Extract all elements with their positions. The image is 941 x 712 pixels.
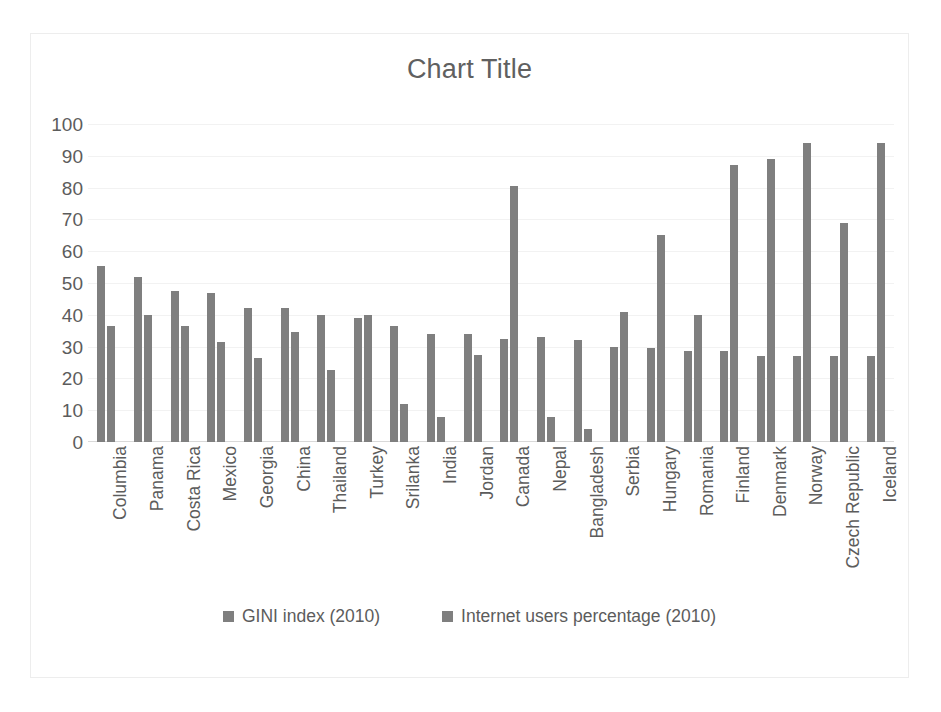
y-axis-tick-label: 0 <box>31 433 83 452</box>
bar-group <box>647 124 665 442</box>
bar <box>720 351 728 442</box>
bar <box>427 334 435 442</box>
bar <box>803 143 811 442</box>
bar-group <box>427 124 445 442</box>
y-axis: 1009080706050403020100 <box>31 124 83 442</box>
x-axis-category-label: Columbia <box>112 446 130 520</box>
x-axis-category-label: Thailand <box>332 446 350 513</box>
bar <box>281 308 289 442</box>
x-axis-labels: ColumbiaPanamaCosta RicaMexicoGeorgiaChi… <box>88 446 894 596</box>
bar <box>793 356 801 442</box>
bar-group <box>720 124 738 442</box>
bar <box>171 291 179 442</box>
bar-group <box>830 124 848 442</box>
y-axis-tick-label: 30 <box>31 337 83 356</box>
bar <box>181 326 189 442</box>
y-axis-tick-label: 60 <box>31 242 83 261</box>
bar <box>107 326 115 442</box>
bar <box>354 318 362 442</box>
bar-group <box>390 124 408 442</box>
bar <box>840 223 848 442</box>
bar <box>244 308 252 442</box>
y-axis-tick-label: 40 <box>31 305 83 324</box>
x-axis-category-label: Romania <box>699 446 717 516</box>
bar <box>217 342 225 442</box>
bar-group <box>757 124 775 442</box>
x-axis-category-label: Serbia <box>625 446 643 497</box>
bar <box>657 235 665 442</box>
bar <box>97 266 105 442</box>
y-axis-tick-label: 70 <box>31 210 83 229</box>
x-axis-category-label: China <box>296 446 314 492</box>
y-axis-tick-label: 100 <box>31 115 83 134</box>
x-axis-category-label: Bangladesh <box>589 446 607 538</box>
bar <box>620 312 628 442</box>
x-axis-category-label: Czech Republic <box>845 446 863 569</box>
bar-group <box>574 124 592 442</box>
bar <box>694 315 702 442</box>
bar <box>867 356 875 442</box>
y-axis-tick-label: 90 <box>31 146 83 165</box>
bar <box>647 348 655 442</box>
x-axis-category-label: Georgia <box>259 446 277 508</box>
x-axis-category-label: India <box>442 446 460 484</box>
bar <box>144 315 152 442</box>
bar-group <box>537 124 555 442</box>
bar <box>537 337 545 442</box>
bar-group <box>244 124 262 442</box>
bar-group <box>684 124 702 442</box>
bar-group <box>134 124 152 442</box>
bar <box>510 186 518 442</box>
x-axis-category-label: Nepal <box>552 446 570 492</box>
bar <box>610 347 618 442</box>
bar <box>574 340 582 442</box>
bar <box>437 417 445 442</box>
bar-group <box>207 124 225 442</box>
bar-group <box>97 124 115 442</box>
chart-frame: Chart Title 1009080706050403020100 Colum… <box>30 33 909 678</box>
legend-item: Internet users percentage (2010) <box>442 606 716 627</box>
bar <box>464 334 472 442</box>
bar-group <box>464 124 482 442</box>
bar <box>584 429 592 442</box>
bar <box>207 293 215 442</box>
plot-area <box>88 124 894 442</box>
x-axis-category-label: Mexico <box>222 446 240 501</box>
legend-swatch-icon <box>442 611 453 622</box>
bar <box>327 370 335 442</box>
x-axis-category-label: Turkey <box>369 446 387 499</box>
bar <box>684 351 692 442</box>
bar <box>767 159 775 442</box>
x-axis-category-label: Finland <box>735 446 753 503</box>
x-axis-category-label: Costa Rica <box>186 446 204 532</box>
legend-swatch-icon <box>223 611 234 622</box>
bar-group <box>793 124 811 442</box>
x-axis-category-label: Canada <box>515 446 533 507</box>
bar <box>291 332 299 442</box>
y-axis-tick-label: 10 <box>31 401 83 420</box>
bar <box>364 315 372 442</box>
y-axis-tick-label: 80 <box>31 178 83 197</box>
bar <box>134 277 142 442</box>
bar-group <box>354 124 372 442</box>
bar <box>830 356 838 442</box>
y-axis-tick-label: 20 <box>31 369 83 388</box>
x-axis-category-label: Denmark <box>772 446 790 517</box>
bar-group <box>281 124 299 442</box>
bar-group <box>317 124 335 442</box>
x-axis-category-label: Iceland <box>882 446 900 502</box>
bar <box>390 326 398 442</box>
y-axis-tick-label: 50 <box>31 274 83 293</box>
bar-group <box>610 124 628 442</box>
bar-group <box>867 124 885 442</box>
bar <box>547 417 555 442</box>
x-axis-category-label: Norway <box>808 446 826 505</box>
chart-title: Chart Title <box>31 54 908 85</box>
bar <box>474 355 482 442</box>
x-axis-category-label: Jordan <box>479 446 497 500</box>
x-axis-category-label: Panama <box>149 446 167 511</box>
legend-label: GINI index (2010) <box>242 606 380 627</box>
bar <box>317 315 325 442</box>
bar <box>500 339 508 442</box>
bar <box>254 358 262 442</box>
